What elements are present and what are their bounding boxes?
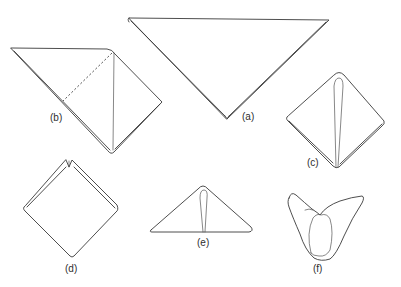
- label-figure-b: (b): [50, 113, 62, 123]
- figure-b: [11, 48, 162, 153]
- figure-d: [24, 160, 118, 257]
- label-figure-f: (f): [313, 264, 322, 274]
- label-figure-a: (a): [242, 112, 254, 122]
- figure-c: [287, 73, 385, 168]
- label-figure-e: (e): [197, 238, 209, 248]
- label-figure-d: (d): [65, 264, 77, 274]
- figure-e: [150, 186, 252, 232]
- label-figure-c: (c): [307, 158, 319, 168]
- figure-f: [288, 194, 364, 261]
